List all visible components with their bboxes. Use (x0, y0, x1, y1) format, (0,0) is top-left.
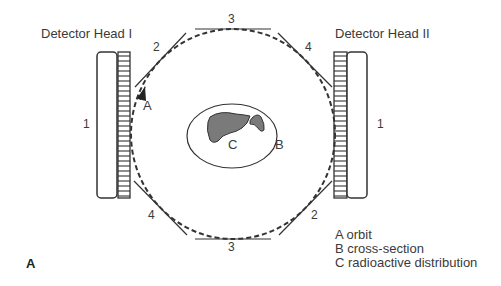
label-bottom-left-4: 4 (148, 209, 155, 221)
marker-radioactive-c: C (228, 138, 237, 151)
label-top-3: 3 (228, 13, 235, 25)
detector-head-1-body (97, 52, 117, 198)
position-line-top-left-2 (135, 33, 186, 87)
detector-head-2-number: 1 (377, 118, 384, 130)
legend: A orbit B cross-section C radioactive di… (335, 228, 477, 270)
detector-head-1-collimator (118, 52, 130, 198)
label-top-left-2: 2 (153, 41, 160, 53)
legend-item-cross-section: B cross-section (335, 242, 477, 256)
panel-label: A (26, 256, 35, 271)
marker-cross-section-b: B (275, 138, 284, 151)
detector-head-2-label: Detector Head II (335, 27, 430, 40)
label-top-right-4: 4 (305, 41, 312, 53)
label-bottom-3: 3 (228, 241, 235, 253)
label-bottom-right-2: 2 (311, 209, 318, 221)
detector-head-1-number: 1 (83, 118, 90, 130)
legend-item-radioactive-distribution: C radioactive distribution (335, 256, 477, 270)
legend-item-orbit: A orbit (335, 228, 477, 242)
detector-head-2-body (347, 52, 367, 198)
detector-head-1-label: Detector Head I (41, 27, 132, 40)
marker-orbit-a: A (143, 99, 152, 112)
detector-head-2-collimator (334, 52, 347, 198)
